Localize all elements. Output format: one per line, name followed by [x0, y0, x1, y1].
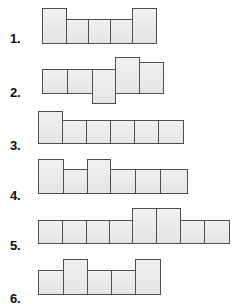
block-cell — [135, 169, 161, 194]
block-cell — [134, 120, 159, 144]
block-cell — [87, 159, 111, 194]
block-cell — [63, 169, 88, 194]
block-cell — [139, 62, 164, 94]
block-cell — [38, 220, 63, 244]
block-cell — [92, 69, 116, 104]
block-cell — [38, 270, 64, 295]
block-cell — [132, 208, 157, 244]
block-cell — [132, 8, 157, 44]
block-cell — [66, 19, 89, 44]
block-cell — [115, 57, 140, 94]
block-cell — [63, 259, 88, 295]
block-cell — [180, 220, 205, 244]
block-cell — [62, 220, 87, 244]
block-cell — [135, 259, 161, 295]
figure-label-2: 2. — [10, 86, 20, 99]
block-cell — [156, 208, 181, 244]
block-cell — [110, 120, 135, 144]
block-cell — [67, 69, 93, 94]
block-cell — [38, 111, 63, 144]
block-cell — [42, 69, 68, 94]
figure-label-1: 1. — [10, 32, 20, 45]
block-cell — [88, 19, 111, 44]
figure-label-3: 3. — [10, 139, 20, 152]
block-cell — [158, 120, 184, 144]
block-figures-sheet: 1.2.3.4.5.6. — [0, 0, 246, 304]
block-cell — [111, 270, 136, 295]
figure-label-5: 5. — [10, 239, 20, 252]
block-cell — [109, 220, 133, 244]
figure-label-6: 6. — [10, 292, 20, 304]
block-cell — [42, 8, 67, 44]
block-cell — [86, 220, 110, 244]
block-cell — [204, 220, 230, 244]
figure-label-4: 4. — [10, 189, 20, 202]
block-cell — [86, 120, 111, 144]
block-cell — [38, 159, 64, 194]
block-cell — [87, 270, 112, 295]
block-cell — [62, 120, 87, 144]
block-cell — [110, 19, 133, 44]
block-cell — [160, 169, 188, 194]
block-cell — [110, 169, 136, 194]
